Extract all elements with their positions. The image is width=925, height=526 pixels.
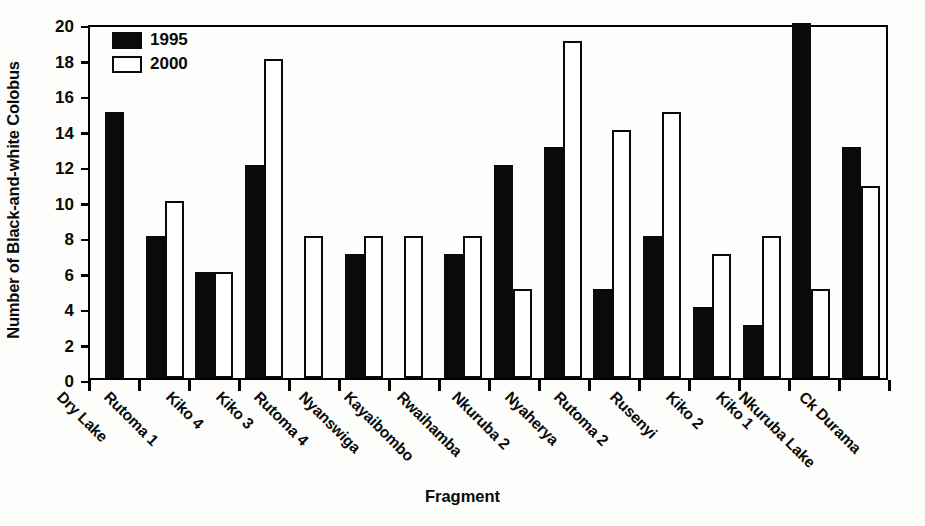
y-axis-title: Number of Black-and-white Colobus: [0, 0, 26, 400]
y-axis-tick-mark: [81, 345, 90, 348]
y-axis-tick-label: 16: [48, 88, 74, 108]
bar-2000: [304, 236, 323, 378]
y-axis-tick-label: 12: [48, 159, 74, 179]
bar-group: [737, 27, 787, 378]
bar-groups: [90, 27, 886, 378]
y-axis-tick-mark: [81, 132, 90, 135]
bar-group: [389, 27, 439, 378]
bar-2000: [214, 272, 233, 379]
y-axis-tick-mark: [81, 97, 90, 100]
y-axis-tick-mark: [81, 310, 90, 313]
bar-1995: [494, 165, 513, 378]
y-axis-tick: 10: [48, 195, 90, 215]
bar-1995: [345, 254, 364, 378]
bar-1995: [544, 147, 563, 378]
bar-2000: [165, 201, 184, 379]
bar-2000: [404, 236, 423, 378]
x-axis-tick-label: Kiko 3: [213, 388, 258, 433]
bar-2000: [861, 186, 880, 378]
y-axis-tick: 6: [48, 266, 90, 286]
y-axis-tick: 0: [48, 372, 90, 392]
bar-2000: [712, 254, 731, 378]
bar-group: [787, 27, 837, 378]
y-axis-tick-mark: [81, 274, 90, 277]
bar-1995: [743, 325, 762, 378]
bar-1995: [195, 272, 214, 379]
bar-group: [190, 27, 240, 378]
bar-1995: [444, 254, 463, 378]
bar-group: [339, 27, 389, 378]
bar-1995: [693, 307, 712, 378]
y-axis-tick-label: 4: [48, 301, 74, 321]
x-axis-tick-label: Rusenyi: [606, 388, 660, 442]
x-axis-tick-label: Rutoma 2: [551, 388, 613, 450]
chart-legend: 1995 2000: [112, 30, 188, 74]
y-axis-tick: 14: [48, 124, 90, 144]
x-axis-tick-label: Kiko 2: [663, 388, 708, 433]
bar-2000: [563, 41, 582, 378]
x-axis-tick-label: Rutoma 1: [101, 388, 163, 450]
bar-2000: [662, 112, 681, 378]
bar-2000: [762, 236, 781, 378]
bar-group: [90, 27, 140, 378]
x-axis-tick-mark: [888, 380, 891, 391]
legend-label-2000: 2000: [150, 54, 188, 74]
bar-group: [140, 27, 190, 378]
y-axis-tick: 12: [48, 159, 90, 179]
bar-2000: [811, 289, 830, 378]
y-axis-tick-label: 0: [48, 372, 74, 392]
bar-2000: [364, 236, 383, 378]
bar-group: [438, 27, 488, 378]
y-axis-tick-mark: [81, 239, 90, 242]
x-axis-title: Fragment: [0, 487, 925, 506]
y-axis-tick-label: 10: [48, 195, 74, 215]
y-axis-tick-label: 18: [48, 53, 74, 73]
bar-group: [538, 27, 588, 378]
bar-1995: [842, 147, 861, 378]
bar-1995: [105, 112, 124, 378]
y-axis-tick-label: 8: [48, 230, 74, 250]
y-axis-tick-label: 6: [48, 266, 74, 286]
bar-group: [588, 27, 638, 378]
y-axis-tick-label: 14: [48, 124, 74, 144]
bar-1995: [593, 289, 612, 378]
y-axis-tick: 20: [48, 17, 90, 37]
plot-area: 20181614121086420: [88, 25, 888, 380]
bar-group: [836, 27, 886, 378]
y-axis-tick-label: 2: [48, 337, 74, 357]
legend-item-2000: 2000: [112, 54, 188, 74]
y-axis-tick-mark: [81, 168, 90, 171]
bar-1995: [643, 236, 662, 378]
y-axis-tick: 8: [48, 230, 90, 250]
bar-2000: [612, 130, 631, 379]
y-axis-tick-label: 20: [48, 17, 74, 37]
bar-group: [637, 27, 687, 378]
bar-2000: [463, 236, 482, 378]
y-axis-tick: 4: [48, 301, 90, 321]
y-axis-tick-mark: [81, 61, 90, 64]
bar-2000: [264, 59, 283, 379]
bar-group: [488, 27, 538, 378]
bar-1995: [245, 165, 264, 378]
y-axis-tick-mark: [81, 26, 90, 29]
y-axis-tick: 2: [48, 337, 90, 357]
x-axis-tick-label: Kiko 4: [163, 388, 208, 433]
legend-item-1995: 1995: [112, 30, 188, 50]
legend-swatch-2000: [112, 56, 142, 73]
colobus-bar-chart-figure: Number of Black-and-white Colobus 201816…: [0, 0, 925, 526]
bar-group: [289, 27, 339, 378]
legend-swatch-1995: [112, 32, 142, 49]
bar-group: [687, 27, 737, 378]
bar-1995: [792, 23, 811, 378]
y-axis-tick-mark: [81, 203, 90, 206]
bar-group: [239, 27, 289, 378]
x-axis-tick-labels: Dry LakeRutoma 1Kiko 4Kiko 3Rutoma 4Nyan…: [88, 384, 888, 504]
bar-2000: [513, 289, 532, 378]
y-axis-tick: 18: [48, 53, 90, 73]
bar-1995: [146, 236, 165, 378]
legend-label-1995: 1995: [150, 30, 188, 50]
y-axis-tick: 16: [48, 88, 90, 108]
